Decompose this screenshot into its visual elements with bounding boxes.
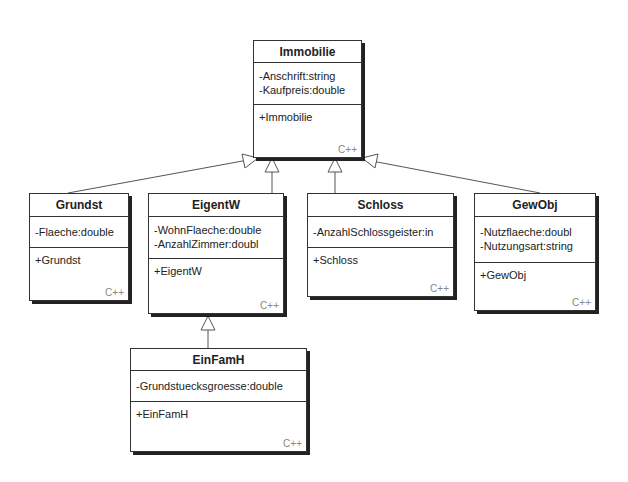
attribute: -Kaufpreis:double — [259, 83, 361, 97]
language-label: C++ — [283, 438, 302, 449]
attribute: -Nutzungsart:string — [480, 239, 595, 253]
attribute: -AnzahlZimmer:doubl — [154, 237, 283, 251]
attribute: -Nutzflaeche:doubl — [480, 225, 595, 239]
class-operations: +Grundst — [30, 248, 128, 266]
class-schloss[interactable]: Schloss -AnzahlSchlossgeister:in +Schlos… — [307, 193, 454, 297]
operation: +EigentW — [154, 265, 283, 277]
attribute: -Flaeche:double — [35, 225, 128, 239]
class-attributes: -WohnFlaeche:double -AnzahlZimmer:doubl — [149, 217, 283, 259]
generalization-arrowhead — [265, 158, 279, 172]
language-label: C++ — [572, 297, 591, 308]
language-label: C++ — [430, 283, 449, 294]
class-gewobj[interactable]: GewObj -Nutzflaeche:doubl -Nutzungsart:s… — [474, 193, 596, 311]
class-operations: +GewObj — [475, 263, 595, 281]
generalization-arrowhead — [362, 154, 378, 168]
class-name: Schloss — [308, 194, 453, 217]
class-name: Immobilie — [254, 41, 361, 63]
class-operations: +Schloss — [308, 248, 453, 266]
class-immobilie[interactable]: Immobilie -Anschrift:string -Kaufpreis:d… — [253, 40, 362, 158]
attribute: -WohnFlaeche:double — [154, 223, 283, 237]
language-label: C++ — [260, 300, 279, 311]
class-attributes: -Nutzflaeche:doubl -Nutzungsart:string — [475, 217, 595, 263]
operation: +Immobilie — [259, 111, 361, 123]
uml-class-diagram: Immobilie -Anschrift:string -Kaufpreis:d… — [0, 0, 628, 482]
class-operations: +Immobilie — [254, 105, 361, 123]
attribute: -AnzahlSchlossgeister:in — [313, 225, 453, 239]
class-name: GewObj — [475, 194, 595, 217]
operation: +GewObj — [480, 269, 595, 281]
class-attributes: -Grundstuecksgroesse:double — [131, 371, 306, 402]
attribute: -Anschrift:string — [259, 69, 361, 83]
class-eigentw[interactable]: EigentW -WohnFlaeche:double -AnzahlZimme… — [148, 193, 284, 314]
class-name: EigentW — [149, 194, 283, 217]
class-name: Grundst — [30, 194, 128, 217]
class-operations: +EigentW — [149, 259, 283, 277]
class-name: EinFamH — [131, 349, 306, 371]
language-label: C++ — [338, 144, 357, 155]
generalization-arrowhead — [328, 158, 342, 172]
operation: +EinFamH — [136, 408, 306, 420]
class-grundst[interactable]: Grundst -Flaeche:double +Grundst C++ — [29, 193, 129, 301]
class-operations: +EinFamH — [131, 402, 306, 420]
class-attributes: -Flaeche:double — [30, 217, 128, 248]
class-attributes: -Anschrift:string -Kaufpreis:double — [254, 63, 361, 105]
language-label: C++ — [105, 287, 124, 298]
generalization-arrowhead — [201, 316, 215, 330]
attribute: -Grundstuecksgroesse:double — [136, 379, 306, 393]
operation: +Grundst — [35, 254, 128, 266]
class-attributes: -AnzahlSchlossgeister:in — [308, 217, 453, 248]
operation: +Schloss — [313, 254, 453, 266]
class-einfamh[interactable]: EinFamH -Grundstuecksgroesse:double +Ein… — [130, 348, 307, 452]
